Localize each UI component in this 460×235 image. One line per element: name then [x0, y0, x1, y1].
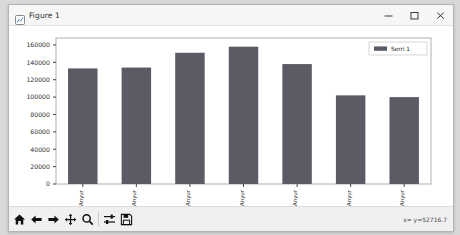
- bar[interactable]: [68, 68, 97, 184]
- x-tick-label: Anyur: [292, 189, 299, 206]
- bar-chart[interactable]: 0200004000060000800001000001200001400001…: [9, 26, 453, 206]
- bar[interactable]: [282, 64, 311, 184]
- legend-swatch: [374, 46, 387, 50]
- move-icon[interactable]: [62, 210, 79, 228]
- sliders-icon[interactable]: [101, 210, 118, 228]
- x-tick-label: Anyur: [185, 189, 192, 206]
- y-tick-label: 160000: [26, 41, 50, 48]
- window-titlebar[interactable]: Figure 1: [9, 5, 453, 26]
- x-tick-label: Anyur: [78, 189, 85, 206]
- figure-icon: [15, 10, 25, 20]
- toolbar-separator: [98, 212, 99, 226]
- arrow-right-icon[interactable]: [45, 210, 62, 228]
- screen: Figure 1: [0, 0, 460, 235]
- bar[interactable]: [336, 95, 365, 184]
- y-tick-label: 100000: [26, 93, 50, 100]
- y-tick-label: 20000: [30, 163, 50, 170]
- chart-root: 0200004000060000800001000001200001400001…: [26, 38, 431, 206]
- titlebar-left: Figure 1: [9, 10, 60, 20]
- bar[interactable]: [175, 53, 204, 184]
- y-tick-label: 120000: [26, 76, 50, 83]
- window-title: Figure 1: [29, 11, 60, 20]
- y-tick-label: 80000: [30, 111, 50, 118]
- coordinate-readout: x= y=52716.7: [403, 216, 447, 223]
- window-controls: [375, 5, 453, 25]
- magnifier-icon[interactable]: [79, 210, 96, 228]
- maximize-icon[interactable]: [401, 5, 427, 25]
- figure-canvas-area[interactable]: 0200004000060000800001000001200001400001…: [9, 26, 453, 206]
- bar[interactable]: [122, 68, 151, 184]
- x-tick-label: Anyur: [346, 189, 353, 206]
- minimize-icon[interactable]: [375, 5, 401, 25]
- y-tick-label: 60000: [30, 128, 50, 135]
- floppy-icon[interactable]: [118, 210, 135, 228]
- y-tick-label: 0: [46, 180, 50, 187]
- arrow-left-icon[interactable]: [28, 210, 45, 228]
- y-tick-label: 40000: [30, 146, 50, 153]
- bar[interactable]: [389, 97, 418, 184]
- figure-window: Figure 1: [8, 4, 454, 232]
- matplotlib-toolbar: x= y=52716.7: [9, 206, 453, 231]
- home-icon[interactable]: [11, 210, 28, 228]
- legend-label: Serri 1: [391, 46, 410, 52]
- close-icon[interactable]: [427, 5, 453, 25]
- x-tick-label: Anyur: [399, 189, 406, 206]
- bar[interactable]: [229, 47, 258, 184]
- x-tick-label: Anyur: [239, 189, 246, 206]
- x-tick-label: Anyur: [131, 189, 138, 206]
- y-tick-label: 140000: [26, 59, 50, 66]
